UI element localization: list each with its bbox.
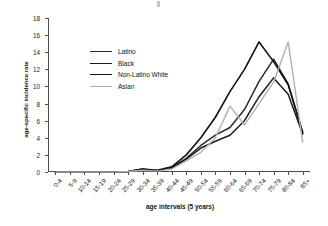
x-axis-tick [259, 172, 260, 175]
x-axis-tick-label: 30-34 [135, 177, 151, 194]
x-axis-tick-label: 0-4 [52, 177, 63, 188]
y-axis-tick-label: 8 [36, 100, 40, 107]
x-axis-tick [143, 172, 144, 175]
y-axis-tick: 8 [45, 104, 48, 105]
legend-label: Latino [118, 48, 136, 55]
y-axis-tick-label: 14 [33, 49, 40, 56]
legend-item-latino: Latino [90, 46, 210, 58]
x-axis-tick [230, 172, 231, 175]
x-axis-tick-label: 45-49 [178, 177, 194, 194]
y-axis-tick: 2 [45, 155, 48, 156]
y-axis-tick-label: 18 [33, 15, 40, 22]
x-axis-tick-label: 55-59 [207, 177, 223, 194]
legend-swatch-icon [90, 86, 112, 87]
x-axis-tick [114, 172, 115, 175]
x-axis-tick [215, 172, 216, 175]
legend-item-non-latino-white: Non-Latino White [90, 69, 210, 81]
x-axis-tick-label: 25-29 [120, 177, 136, 194]
y-axis-tick-label: 4 [36, 134, 40, 141]
x-axis-tick-label: 10-14 [76, 177, 92, 194]
legend-label: Black [118, 60, 134, 67]
x-axis-tick [172, 172, 173, 175]
x-axis-title: age intervals (5 years) [50, 203, 310, 210]
legend-label: Non-Latino White [118, 71, 168, 78]
x-axis-tick [288, 172, 289, 175]
y-axis-tick: 0 [45, 172, 48, 173]
x-axis-tick-label: 60-64 [222, 177, 238, 194]
x-axis-tick-label: 50-54 [193, 177, 209, 194]
x-axis-tick-label: 75-79 [266, 177, 282, 194]
y-axis-title: age-specific incidence rate [22, 25, 29, 175]
x-axis-tick [128, 172, 129, 175]
y-axis-tick-label: 6 [36, 117, 40, 124]
y-axis-tick-label: 10 [33, 83, 40, 90]
x-axis-tick-label: 65-69 [237, 177, 253, 194]
x-axis-tick-label: 80-84 [280, 177, 296, 194]
x-axis-tick [84, 172, 85, 175]
y-axis-tick-label: 16 [33, 32, 40, 39]
y-axis-tick-label: 2 [36, 151, 40, 158]
x-axis-tick-label: 70-74 [251, 177, 267, 194]
y-axis-tick: 12 [45, 69, 48, 70]
x-axis-tick [274, 172, 275, 175]
x-axis-tick-label: 35-39 [149, 177, 165, 194]
y-axis-tick: 16 [45, 35, 48, 36]
x-axis-tick [99, 172, 100, 175]
legend-item-asian: Asian [90, 81, 210, 93]
legend-swatch-icon [90, 74, 112, 75]
x-axis-tick-label: 15-19 [91, 177, 107, 194]
x-axis-tick [55, 172, 56, 175]
legend-label: Asian [118, 83, 134, 90]
x-axis-tick [303, 172, 304, 175]
series-line-black [55, 78, 302, 172]
plot-area: 0246810121416180-45-910-1415-1920-2425-2… [48, 18, 310, 172]
x-axis-tick [186, 172, 187, 175]
legend-swatch-icon [90, 63, 112, 64]
x-axis-tick [70, 172, 71, 175]
legend-swatch-icon [90, 51, 112, 52]
y-axis-tick: 14 [45, 52, 48, 53]
x-axis-tick-label: 85+ [298, 177, 310, 190]
x-axis-tick [201, 172, 202, 175]
chart-figure: age-specific incidence rate age interval… [0, 0, 328, 226]
y-axis-tick-label: 12 [33, 66, 40, 73]
x-axis-tick [157, 172, 158, 175]
chart-legend: LatinoBlackNon-Latino WhiteAsian [90, 46, 210, 92]
legend-item-black: Black [90, 58, 210, 70]
series-layer [48, 18, 310, 172]
y-axis-tick: 18 [45, 18, 48, 19]
y-axis-tick-label: 0 [36, 169, 40, 176]
y-axis-tick: 10 [45, 86, 48, 87]
x-axis-tick-label: 20-24 [106, 177, 122, 194]
x-axis-tick [245, 172, 246, 175]
y-axis-tick: 6 [45, 121, 48, 122]
x-axis-tick-label: 40-44 [164, 177, 180, 194]
scan-artifact [157, 1, 160, 7]
y-axis-tick: 4 [45, 138, 48, 139]
